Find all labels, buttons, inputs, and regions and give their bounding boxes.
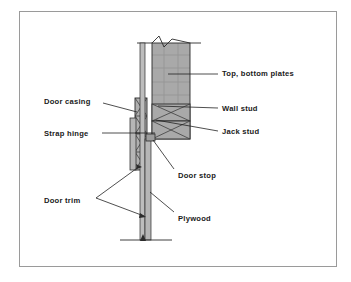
figure-root: Top, bottom plates Wall stud Jack stud D… (0, 0, 351, 282)
door-framing-diagram: Top, bottom plates Wall stud Jack stud D… (0, 0, 351, 282)
leader-plywood (150, 192, 174, 212)
label-wall-stud: Wall stud (222, 104, 258, 113)
leader-door-casing (103, 103, 137, 112)
door-trim-upper (130, 118, 136, 170)
jack-stud-section (152, 121, 190, 139)
plywood-body (140, 43, 145, 240)
label-plywood: Plywood (178, 214, 211, 223)
label-door-casing: Door casing (44, 97, 91, 106)
leader-door-trim (96, 164, 146, 218)
door-stop-body (146, 134, 155, 141)
label-strap-hinge: Strap hinge (44, 129, 89, 138)
label-jack-stud: Jack stud (222, 127, 259, 136)
door-trim-body-lower (145, 139, 151, 240)
label-door-stop: Door stop (178, 171, 216, 180)
label-top-bottom-plates: Top, bottom plates (222, 69, 294, 78)
label-door-trim: Door trim (44, 196, 80, 205)
plywood-column (140, 43, 151, 240)
door-trim-body-upper (130, 118, 136, 170)
leader-door-stop (153, 140, 174, 169)
